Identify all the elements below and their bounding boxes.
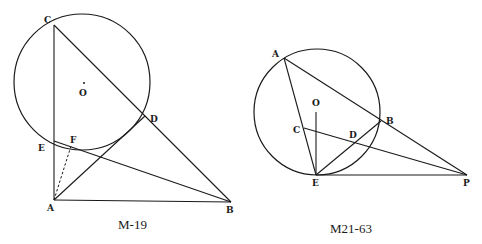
- segment-ab: [54, 200, 231, 202]
- label-e: E: [38, 143, 45, 153]
- label-f: F: [70, 135, 77, 145]
- circle-right: [254, 49, 380, 175]
- label-b: B: [386, 116, 394, 126]
- label-b: B: [226, 205, 234, 215]
- caption-m21-63: M21-63: [330, 221, 372, 236]
- label-a: A: [46, 203, 55, 213]
- label-o: O: [79, 88, 87, 98]
- figure-m19: C O D E F A B M-19: [14, 14, 234, 232]
- figure-m21-63: A O B C D E P M21-63: [254, 49, 470, 236]
- label-c: C: [44, 15, 51, 25]
- label-o: O: [312, 98, 320, 108]
- geometry-figures: C O D E F A B M-19 A O B C D E P M21-63: [0, 0, 482, 244]
- label-d: D: [150, 114, 158, 124]
- segment-eb: [54, 141, 231, 202]
- caption-m19: M-19: [118, 217, 147, 232]
- segment-ad: [54, 116, 145, 200]
- label-d: D: [349, 130, 357, 140]
- center-dot-o: [83, 82, 85, 84]
- label-c: C: [293, 125, 300, 135]
- label-e: E: [312, 178, 319, 188]
- label-p: P: [463, 178, 470, 188]
- label-a: A: [271, 49, 280, 59]
- segment-cp: [304, 128, 467, 175]
